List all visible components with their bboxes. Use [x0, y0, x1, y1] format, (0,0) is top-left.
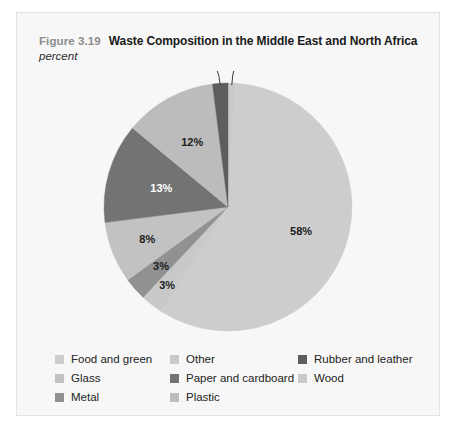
legend-item-metal[interactable]: Metal: [55, 391, 170, 404]
legend-swatch-icon: [170, 355, 179, 364]
pie-slices: [104, 83, 352, 331]
legend-swatch-icon: [170, 393, 179, 402]
pie-chart: 1%58%3%3%8%13%12%2%: [17, 71, 439, 351]
legend-swatch-icon: [55, 393, 64, 402]
pie-slice-label: 13%: [150, 182, 172, 194]
figure-units: percent: [39, 50, 429, 63]
legend-label: Other: [186, 353, 215, 366]
legend-item-food-and-green[interactable]: Food and green: [55, 353, 170, 366]
legend-item-rubber-and-leather[interactable]: Rubber and leather: [298, 353, 438, 366]
pie-slice-label: 3%: [153, 260, 169, 272]
legend-item-other[interactable]: Other: [170, 353, 298, 366]
legend-swatch-icon: [170, 374, 179, 383]
pie-chart-svg: 1%58%3%3%8%13%12%2%: [17, 71, 439, 351]
legend-item-glass[interactable]: Glass: [55, 372, 170, 385]
legend-swatch-icon: [298, 355, 307, 364]
pie-slice-label: 8%: [139, 233, 155, 245]
legend-label: Wood: [314, 372, 344, 385]
legend-item-wood[interactable]: Wood: [298, 372, 438, 385]
legend-swatch-icon: [298, 374, 307, 383]
legend-label: Food and green: [71, 353, 152, 366]
legend-row: Food and greenOtherRubber and leather: [55, 353, 439, 372]
pie-leader-line: [207, 71, 220, 85]
legend-label: Rubber and leather: [314, 353, 412, 366]
legend-label: Plastic: [186, 391, 220, 404]
legend-row: MetalPlastic: [55, 391, 439, 410]
legend-swatch-icon: [55, 355, 64, 364]
pie-slice-label: 58%: [290, 225, 312, 237]
figure-title: Waste Composition in the Middle East and…: [109, 34, 418, 48]
pie-slice-label: 12%: [181, 136, 203, 148]
figure-header: Figure 3.19Waste Composition in the Midd…: [39, 33, 429, 63]
legend-label: Glass: [71, 372, 100, 385]
pie-slice-label: 3%: [159, 279, 175, 291]
figure-number: Figure 3.19: [39, 35, 101, 47]
legend-row: GlassPaper and cardboardWood: [55, 372, 439, 391]
figure-title-line: Figure 3.19Waste Composition in the Midd…: [39, 33, 429, 48]
legend-label: Metal: [71, 391, 99, 404]
legend-item-paper-and-cardboard[interactable]: Paper and cardboard: [170, 372, 298, 385]
chart-legend: Food and greenOtherRubber and leatherGla…: [55, 353, 439, 410]
legend-label: Paper and cardboard: [186, 372, 294, 385]
legend-item-plastic[interactable]: Plastic: [170, 391, 298, 404]
legend-swatch-icon: [55, 374, 64, 383]
figure-panel: Figure 3.19Waste Composition in the Midd…: [16, 12, 440, 416]
